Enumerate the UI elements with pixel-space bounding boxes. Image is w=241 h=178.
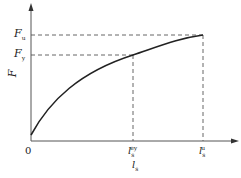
y-axis-label: F: [7, 70, 18, 78]
lu-label: lsu: [199, 145, 205, 158]
fy-label: Fy: [14, 48, 25, 61]
y-axis-arrow-icon: [29, 3, 34, 11]
load-curve: [31, 35, 203, 135]
origin-label: 0: [25, 145, 31, 156]
x-axis-label: ls: [132, 160, 138, 172]
fu-label: Fu: [14, 28, 26, 41]
ley-label: lsey: [128, 145, 137, 158]
x-axis-arrow-icon: [231, 139, 239, 144]
